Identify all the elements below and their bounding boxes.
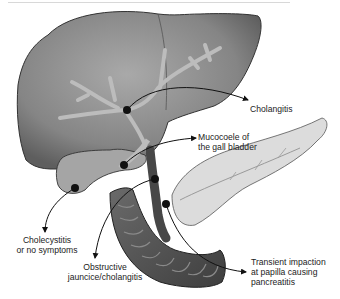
label-transient-impaction: Transient impaction at papilla causing p… [251, 257, 326, 287]
common-bile-duct [150, 150, 166, 238]
label-mucocoele: Mucocoele of the gall bladder [198, 132, 257, 152]
label-cholangitis: Cholangitis [250, 104, 293, 114]
label-obstructive: Obstructive jauncice/cholangitis [60, 262, 150, 282]
label-cholecystitis: Cholecystitis or no symptoms [12, 235, 82, 255]
